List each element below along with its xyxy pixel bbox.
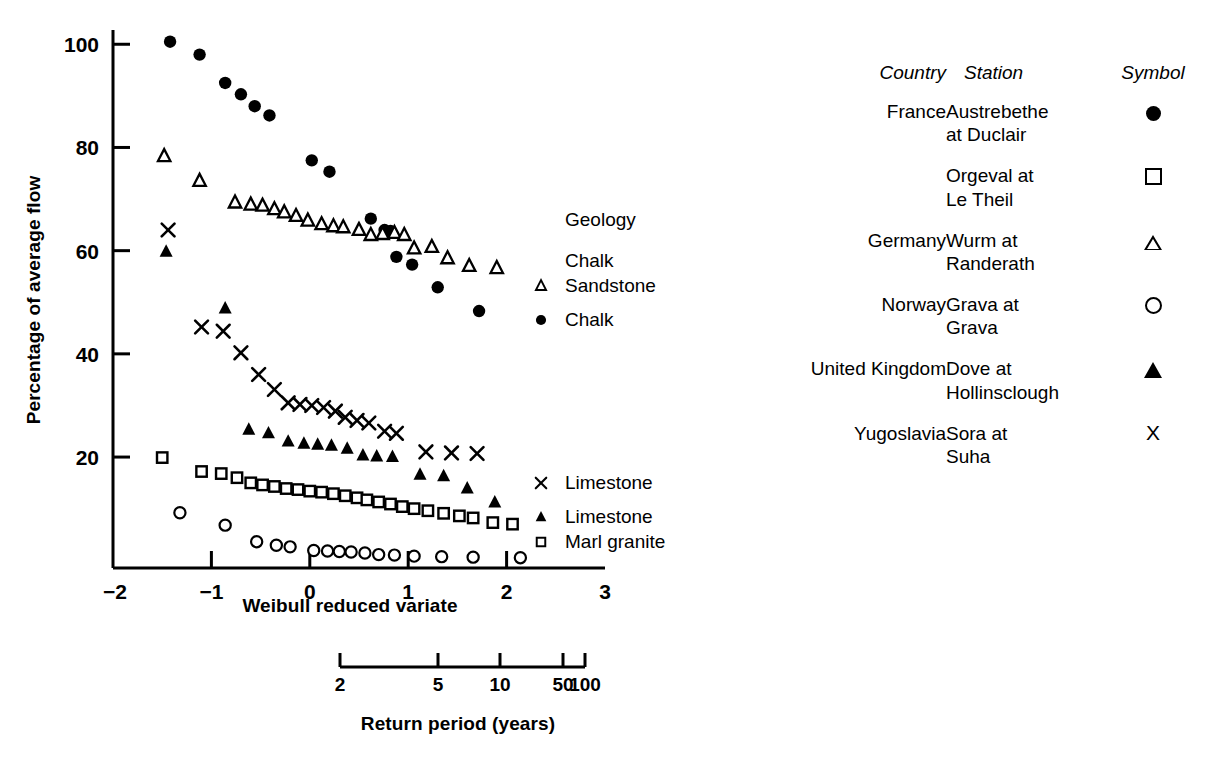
- data-point: [315, 217, 327, 229]
- data-point: [390, 427, 403, 440]
- legend-header-country: Country: [760, 62, 946, 100]
- data-point: [281, 483, 291, 493]
- data-point: [268, 383, 281, 396]
- data-point: [389, 550, 400, 561]
- data-point: [515, 552, 526, 563]
- legend-station-line2: Hollinsclough: [946, 381, 1116, 404]
- annotation-filled-triangle-icon: [536, 511, 547, 521]
- legend-country: France: [760, 100, 946, 164]
- data-point: [323, 166, 335, 178]
- annotation-label: Limestone: [565, 472, 653, 493]
- legend-symbol: [1116, 164, 1190, 228]
- data-point: [306, 154, 318, 166]
- legend-symbol: [1116, 229, 1190, 293]
- y-axis-tick-label: 60: [76, 240, 99, 263]
- x-axis-tick-label: 2: [501, 580, 513, 603]
- legend-station-line2: Le Theil: [946, 188, 1116, 211]
- data-point: [406, 258, 418, 270]
- data-point: [491, 261, 503, 273]
- data-point: [195, 321, 208, 334]
- legend-country: Germany: [760, 229, 946, 293]
- data-point: [370, 449, 383, 461]
- legend-station: Dove atHollinsclough: [946, 357, 1116, 421]
- data-point: [340, 491, 350, 501]
- legend-country: [760, 164, 946, 228]
- annotation-label: Sandstone: [565, 275, 656, 296]
- y-axis-tick-label: 20: [76, 446, 99, 469]
- legend-station: Grava atGrava: [946, 293, 1116, 357]
- data-point: [337, 220, 349, 232]
- annotation-label: Chalk: [565, 250, 614, 271]
- scatter-chart-figure: 20406080100−2−10123Percentage of average…: [0, 0, 680, 779]
- legend-station-line1: Wurm at: [946, 229, 1116, 252]
- data-point: [373, 549, 384, 560]
- data-point: [473, 305, 485, 317]
- y-axis-title: Percentage of average flow: [23, 176, 44, 425]
- data-point: [436, 551, 447, 562]
- legend-row: Orgeval atLe Theil: [760, 164, 1190, 228]
- data-point: [454, 511, 464, 521]
- annotation-label: Marl granite: [565, 531, 665, 552]
- data-point: [409, 551, 420, 562]
- data-point: [346, 546, 357, 557]
- data-point: [219, 77, 231, 89]
- legend-country: Yugoslavia: [760, 422, 946, 486]
- station-legend-table: Country Station Symbol FranceAustrebethe…: [760, 62, 1190, 486]
- data-point: [308, 545, 319, 556]
- data-point: [341, 441, 354, 453]
- data-point: [293, 484, 303, 494]
- annotation-open-triangle-icon: [536, 280, 546, 290]
- legend-row: GermanyWurm atRanderath: [760, 229, 1190, 293]
- data-point: [193, 174, 205, 186]
- annotation-filled-circle-icon: [536, 315, 546, 325]
- return-period-tick-label: 100: [569, 674, 601, 695]
- annotation-label: Limestone: [565, 506, 653, 527]
- data-point: [488, 495, 501, 507]
- legend-header-station: Station: [946, 62, 1116, 100]
- return-period-tick-label: 2: [335, 674, 346, 695]
- y-axis-tick-label: 40: [76, 343, 99, 366]
- figure-page: 20406080100−2−10123Percentage of average…: [0, 0, 1206, 779]
- data-point: [441, 251, 453, 263]
- data-point: [216, 468, 226, 478]
- legend-station-line2: Randerath: [946, 252, 1116, 275]
- legend-station-line2: Suha: [946, 445, 1116, 468]
- data-point: [414, 467, 427, 479]
- annotation-label: Geology: [565, 209, 636, 230]
- legend-symbol: [1116, 293, 1190, 357]
- data-point: [408, 241, 420, 253]
- data-point: [245, 198, 257, 210]
- data-point: [160, 244, 173, 256]
- data-point: [256, 199, 268, 211]
- legend-station: Wurm atRanderath: [946, 229, 1116, 293]
- data-point: [409, 503, 419, 513]
- x-axis-tick-label: −2: [103, 580, 127, 603]
- series-filled-triangle: [160, 244, 502, 507]
- data-point: [461, 481, 474, 493]
- data-point: [386, 450, 399, 462]
- data-point: [328, 488, 338, 498]
- open-triangle-icon: [1144, 235, 1162, 250]
- filled-triangle-icon: [1144, 362, 1162, 378]
- legend-station-line1: Grava at: [946, 293, 1116, 316]
- annotation-label: Chalk: [565, 309, 614, 330]
- data-point: [423, 506, 433, 516]
- legend-station: Austrebetheat Duclair: [946, 100, 1116, 164]
- data-point: [420, 446, 433, 459]
- legend-station-line2: Grava: [946, 316, 1116, 339]
- series-filled-circle: [164, 35, 485, 317]
- annotation-cross-icon: [536, 478, 546, 488]
- open-square-icon: [1145, 168, 1162, 185]
- data-point: [445, 447, 458, 460]
- data-point: [158, 149, 170, 161]
- series-cross: [162, 224, 484, 460]
- cross-icon: X: [1146, 425, 1160, 440]
- legend-station-line1: Orgeval at: [946, 164, 1116, 187]
- data-point: [468, 513, 478, 523]
- data-point: [220, 520, 231, 531]
- data-point: [397, 501, 407, 511]
- data-point: [356, 448, 369, 460]
- data-point: [322, 545, 333, 556]
- x-axis-title: Weibull reduced variate: [242, 595, 457, 616]
- return-period-axis-title: Return period (years): [361, 713, 555, 734]
